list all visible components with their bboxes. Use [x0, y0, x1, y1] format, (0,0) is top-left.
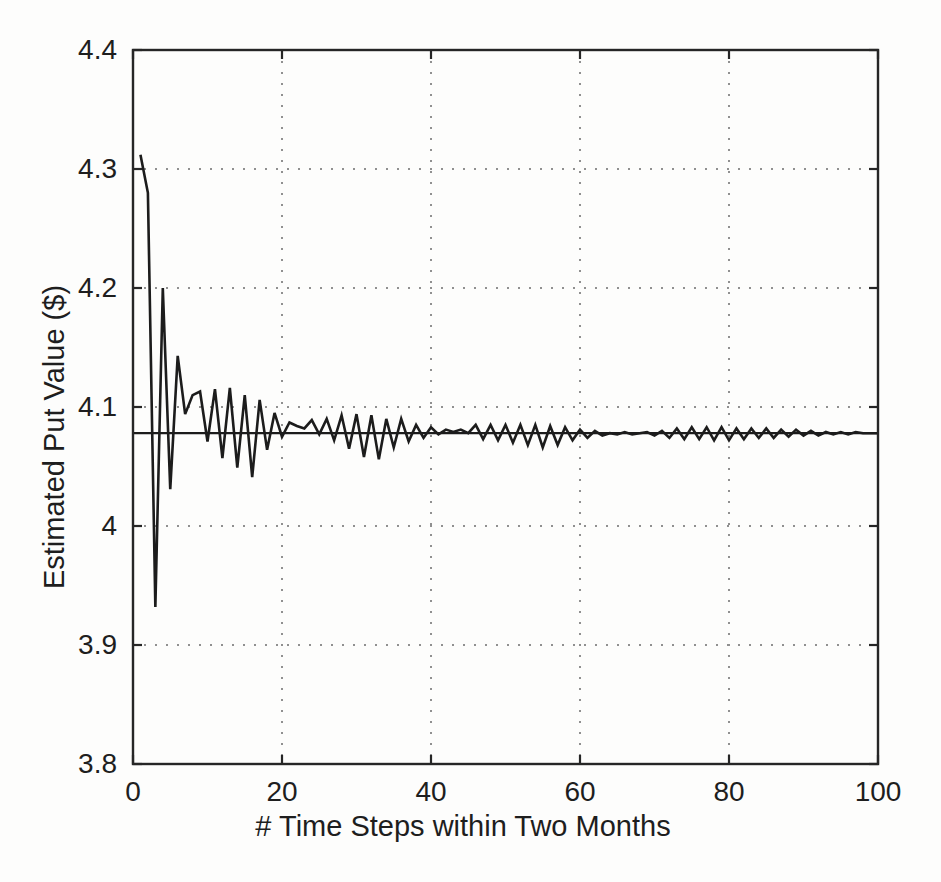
y-tick-label: 3.8: [0, 748, 117, 780]
y-tick-label: 3.9: [0, 629, 117, 661]
y-tick-label: 4: [0, 510, 117, 542]
y-tick-label: 4.1: [0, 391, 117, 423]
x-tick-label: 60: [564, 776, 595, 808]
plot-canvas: [0, 0, 941, 882]
data-curve: [140, 155, 878, 607]
y-tick-label: 4.4: [0, 34, 117, 66]
y-tick-label: 4.3: [0, 153, 117, 185]
x-tick-label: 100: [855, 776, 902, 808]
y-axis-label: Estimated Put Value ($): [38, 285, 71, 589]
x-tick-label: 40: [415, 776, 446, 808]
x-tick-label: 80: [713, 776, 744, 808]
x-axis-label: # Time Steps within Two Months: [255, 810, 670, 843]
x-tick-label: 0: [125, 776, 141, 808]
figure: Estimated Put Value ($) # Time Steps wit…: [0, 0, 941, 882]
x-tick-label: 20: [266, 776, 297, 808]
y-tick-label: 4.2: [0, 272, 117, 304]
